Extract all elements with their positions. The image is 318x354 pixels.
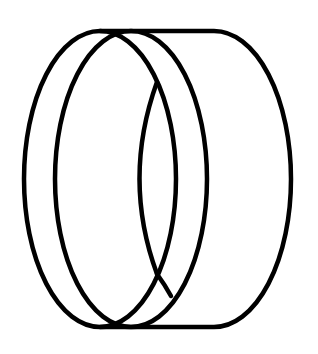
front-outer-ellipse xyxy=(24,31,176,327)
back-inner-arc xyxy=(140,82,158,274)
front-inner-ellipse xyxy=(55,31,207,327)
band-outline xyxy=(100,31,291,327)
ring-band-icon xyxy=(0,0,318,354)
back-inner-arc-lower xyxy=(157,274,171,296)
